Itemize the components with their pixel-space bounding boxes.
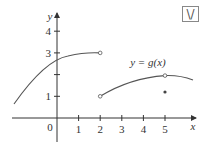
- y-tick-3: 3: [46, 47, 52, 59]
- x-tick-2: 2: [97, 123, 103, 135]
- function-label: y = g(x): [129, 56, 166, 69]
- open-point-2-3: [98, 51, 102, 55]
- x-tick-5: 5: [162, 123, 168, 135]
- filled-point-5: [163, 90, 166, 93]
- y-tick-1: 1: [46, 90, 52, 102]
- open-point-5-2: [163, 74, 167, 78]
- x-tick-1: 1: [76, 123, 82, 135]
- y-tick-4: 4: [46, 25, 52, 37]
- y-axis-label: y: [47, 10, 53, 22]
- x-axis-label: x: [190, 120, 196, 132]
- origin-label: 0: [47, 121, 53, 133]
- open-point-2-1: [98, 95, 102, 99]
- badge-icon: \/: [182, 6, 199, 22]
- curve-piece-2: [100, 76, 193, 97]
- x-tick-3: 3: [119, 123, 125, 135]
- x-tick-4: 4: [141, 123, 147, 135]
- graph: 1 2 3 4 5 0 1 3 4 x y y = g(x): [0, 0, 207, 148]
